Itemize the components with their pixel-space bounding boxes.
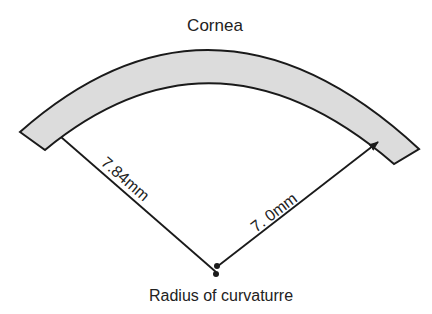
cornea-diagram: Cornea 7.84mm 7. 0mm Radius of curvaturr… — [0, 0, 432, 314]
center-label: Radius of curvaturre — [149, 287, 293, 304]
center-point-upper — [214, 263, 220, 269]
center-point-lower — [213, 271, 219, 277]
cornea-band — [20, 50, 419, 164]
left-radius-label: 7.84mm — [98, 153, 153, 204]
cornea-label: Cornea — [187, 16, 243, 35]
right-radius-label: 7. 0mm — [247, 189, 300, 235]
left-radius-line — [61, 137, 216, 272]
